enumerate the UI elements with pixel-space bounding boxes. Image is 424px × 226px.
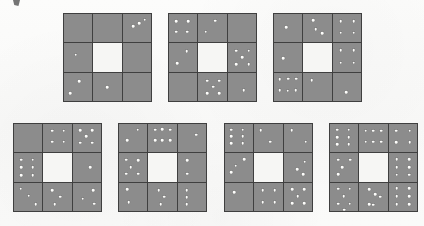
grid-cell-middle-right[interactable] xyxy=(178,153,206,181)
dot-marker xyxy=(195,133,198,136)
grid-cell-middle-left[interactable] xyxy=(14,153,42,181)
grid-cell-bottom-middle[interactable] xyxy=(198,73,226,101)
grid-cell-bottom-left[interactable] xyxy=(64,73,92,101)
grid-cell-bottom-middle[interactable] xyxy=(93,73,121,101)
dot-grid-4[interactable] xyxy=(13,123,102,212)
grid-cell-top-middle[interactable] xyxy=(148,124,176,152)
dot-grid-1[interactable] xyxy=(63,13,152,102)
dot-marker xyxy=(352,31,355,34)
dot-grid-7[interactable] xyxy=(329,123,418,212)
dot-marker xyxy=(321,32,324,35)
grid-cell-bottom-middle[interactable] xyxy=(43,183,71,211)
dot-marker xyxy=(337,202,340,205)
grid-cell-bottom-right[interactable] xyxy=(333,73,361,101)
grid-cell-middle-left[interactable] xyxy=(225,153,253,181)
grid-cell-top-right[interactable] xyxy=(178,124,206,152)
grid-cell-middle-left[interactable] xyxy=(64,43,92,71)
dot-marker xyxy=(185,50,188,53)
dot-marker xyxy=(206,79,209,82)
dot-marker xyxy=(159,203,162,206)
grid-cell-bottom-left[interactable] xyxy=(225,183,253,211)
dot-marker xyxy=(51,130,54,133)
grid-cell-middle-left[interactable] xyxy=(330,153,358,181)
dot-grid-6[interactable] xyxy=(224,123,313,212)
grid-cell-bottom-middle[interactable] xyxy=(359,183,387,211)
dot-marker xyxy=(342,195,345,198)
grid-cell-bottom-left[interactable] xyxy=(330,183,358,211)
dot-marker xyxy=(53,203,56,206)
grid-cell-middle-right[interactable] xyxy=(123,43,151,71)
grid-cell-top-right[interactable] xyxy=(333,14,361,42)
grid-cell-top-left[interactable] xyxy=(119,124,147,152)
grid-cell-top-left[interactable] xyxy=(330,124,358,152)
grid-cell-top-right[interactable] xyxy=(284,124,312,152)
dot-marker xyxy=(185,189,188,192)
dot-marker xyxy=(290,129,293,132)
grid-cell-center[interactable] xyxy=(359,153,387,181)
dot-grid-2[interactable] xyxy=(168,13,257,102)
dot-marker xyxy=(303,161,306,164)
grid-cell-bottom-right[interactable] xyxy=(123,73,151,101)
grid-cell-middle-right[interactable] xyxy=(333,43,361,71)
dot-marker xyxy=(51,189,54,192)
grid-cell-bottom-left[interactable] xyxy=(14,183,42,211)
grid-cell-bottom-right[interactable] xyxy=(389,183,417,211)
grid-cell-top-left[interactable] xyxy=(225,124,253,152)
grid-cell-top-right[interactable] xyxy=(73,124,101,152)
grid-cell-top-middle[interactable] xyxy=(43,124,71,152)
grid-cell-bottom-middle[interactable] xyxy=(148,183,176,211)
grid-cell-top-left[interactable] xyxy=(169,14,197,42)
grid-cell-top-left[interactable] xyxy=(274,14,302,42)
grid-cell-top-right[interactable] xyxy=(389,124,417,152)
grid-cell-top-left[interactable] xyxy=(64,14,92,42)
dot-marker xyxy=(347,136,350,139)
dot-marker xyxy=(408,158,411,161)
dot-marker xyxy=(62,130,65,133)
dot-marker xyxy=(395,203,398,206)
grid-cell-top-middle[interactable] xyxy=(93,14,121,42)
grid-cell-top-middle[interactable] xyxy=(254,124,282,152)
grid-cell-bottom-left[interactable] xyxy=(119,183,147,211)
grid-cell-top-left[interactable] xyxy=(14,124,42,152)
grid-cell-bottom-right[interactable] xyxy=(228,73,256,101)
grid-cell-center[interactable] xyxy=(303,43,331,71)
dot-marker xyxy=(242,89,245,92)
grid-cell-middle-left[interactable] xyxy=(274,43,302,71)
dot-marker xyxy=(185,203,188,206)
grid-cell-middle-right[interactable] xyxy=(228,43,256,71)
dot-grid-5[interactable] xyxy=(118,123,207,212)
dot-marker xyxy=(31,174,34,177)
grid-cell-center[interactable] xyxy=(254,153,282,181)
dot-marker xyxy=(296,168,299,171)
grid-cell-middle-left[interactable] xyxy=(119,153,147,181)
dot-marker xyxy=(204,30,207,33)
grid-cell-middle-left[interactable] xyxy=(169,43,197,71)
grid-cell-center[interactable] xyxy=(93,43,121,71)
grid-cell-top-middle[interactable] xyxy=(303,14,331,42)
grid-cell-bottom-middle[interactable] xyxy=(303,73,331,101)
dot-marker xyxy=(130,166,133,169)
grid-cell-bottom-middle[interactable] xyxy=(254,183,282,211)
grid-cell-top-right[interactable] xyxy=(123,14,151,42)
dot-grid-3[interactable] xyxy=(273,13,362,102)
dot-marker xyxy=(395,174,398,177)
grid-cell-top-middle[interactable] xyxy=(198,14,226,42)
grid-cell-middle-right[interactable] xyxy=(389,153,417,181)
dot-marker xyxy=(285,26,288,29)
grid-cell-top-middle[interactable] xyxy=(359,124,387,152)
grid-cell-bottom-right[interactable] xyxy=(73,183,101,211)
dot-marker xyxy=(137,159,140,162)
grid-cell-center[interactable] xyxy=(43,153,71,181)
dot-marker xyxy=(187,20,190,23)
grid-cell-top-right[interactable] xyxy=(228,14,256,42)
grid-cell-bottom-right[interactable] xyxy=(178,183,206,211)
dot-marker xyxy=(169,139,172,142)
grid-cell-bottom-left[interactable] xyxy=(274,73,302,101)
grid-cell-bottom-left[interactable] xyxy=(169,73,197,101)
grid-cell-bottom-right[interactable] xyxy=(284,183,312,211)
grid-cell-middle-right[interactable] xyxy=(73,153,101,181)
grid-cell-middle-right[interactable] xyxy=(284,153,312,181)
grid-cell-center[interactable] xyxy=(148,153,176,181)
grid-cell-center[interactable] xyxy=(198,43,226,71)
dot-marker xyxy=(218,92,221,95)
